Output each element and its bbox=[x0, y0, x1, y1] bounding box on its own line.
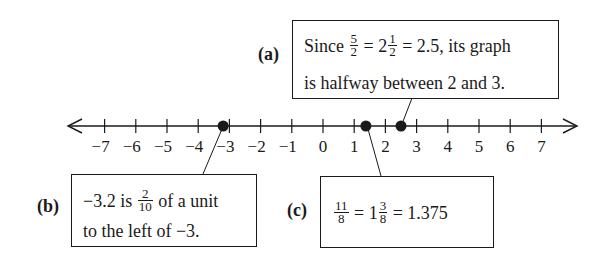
callout-b-label: (b) bbox=[37, 196, 59, 217]
tick-label: 0 bbox=[319, 137, 328, 156]
fraction-eleven-eighths: 118 bbox=[334, 200, 349, 225]
text: −3.2 is bbox=[83, 191, 137, 211]
fraction-five-halves: 52 bbox=[350, 33, 359, 58]
fraction-two-tenths: 210 bbox=[138, 188, 153, 213]
leader-line-c bbox=[368, 129, 381, 176]
tick-label: −7 bbox=[92, 137, 111, 156]
tick-label: 1 bbox=[350, 137, 359, 156]
callout-b-line1: −3.2 is 210 of a unit bbox=[83, 190, 218, 215]
tick-label: 4 bbox=[444, 137, 453, 156]
tick-labels: −7−6−5−4−3−2−101234567 bbox=[92, 137, 547, 156]
leader-line-a bbox=[402, 98, 412, 124]
text: = 2 bbox=[359, 36, 387, 56]
tick-label: −5 bbox=[154, 137, 172, 156]
callout-b-box: −3.2 is 210 of a unit to the left of −3. bbox=[71, 174, 257, 247]
point-c bbox=[360, 121, 371, 132]
callout-a-label: (a) bbox=[258, 44, 279, 65]
text: = 1.375 bbox=[388, 203, 448, 223]
callout-c-box: 118 = 138 = 1.375 bbox=[320, 176, 494, 248]
fraction-one-half: 12 bbox=[388, 33, 397, 58]
text: = 1 bbox=[350, 203, 378, 223]
denominator: 8 bbox=[379, 213, 388, 225]
tick-label: 7 bbox=[537, 137, 546, 156]
callout-a-line1: Since 52 = 212 = 2.5, its graph bbox=[304, 35, 511, 60]
denominator: 10 bbox=[138, 201, 153, 213]
text: of a unit bbox=[154, 191, 219, 211]
fraction-three-eighths: 38 bbox=[379, 200, 388, 225]
denominator: 2 bbox=[388, 46, 397, 58]
tick-label: 6 bbox=[506, 137, 515, 156]
callout-a-line2: is halfway between 2 and 3. bbox=[304, 74, 505, 92]
callout-c-line1: 118 = 138 = 1.375 bbox=[333, 202, 448, 227]
tick-label: −6 bbox=[123, 137, 141, 156]
tick-label: −3 bbox=[216, 137, 234, 156]
number-line-diagram: −7−6−5−4−3−2−101234567 (a) Since 52 = 21… bbox=[0, 0, 606, 269]
tick-label: 5 bbox=[475, 137, 484, 156]
point-a bbox=[396, 121, 407, 132]
tick-label: 2 bbox=[381, 137, 390, 156]
text: = 2.5, its graph bbox=[398, 36, 511, 56]
tick-label: −2 bbox=[248, 137, 266, 156]
callout-c-label: (c) bbox=[287, 200, 307, 221]
point-b bbox=[218, 121, 229, 132]
callout-b-line2: to the left of −3. bbox=[83, 222, 200, 240]
denominator: 8 bbox=[334, 213, 349, 225]
tick-label: −1 bbox=[279, 137, 297, 156]
callout-a-box: Since 52 = 212 = 2.5, its graph is halfw… bbox=[292, 20, 559, 99]
tick-label: 3 bbox=[412, 137, 421, 156]
denominator: 2 bbox=[350, 46, 359, 58]
tick-label: −4 bbox=[185, 137, 204, 156]
text: Since bbox=[304, 36, 349, 56]
